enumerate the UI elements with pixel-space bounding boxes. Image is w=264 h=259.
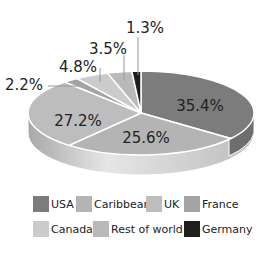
legend-item-caribbean: Caribbean — [76, 196, 150, 212]
label-rest: 3.5% — [89, 40, 127, 58]
label-germany: 1.3% — [126, 19, 164, 37]
legend-item-canada: Canada — [33, 221, 93, 237]
legend-swatch-uk — [146, 196, 162, 212]
label-france: 2.2% — [5, 76, 43, 94]
legend-swatch-germany — [184, 221, 200, 237]
legend-item-uk: UK — [146, 196, 179, 212]
legend-swatch-france — [184, 196, 200, 212]
legend-item-rest-of-world: Rest of world — [93, 221, 183, 237]
legend-item-germany: Germany — [184, 221, 253, 237]
label-usa: 35.4% — [176, 97, 224, 115]
legend-swatch-canada — [33, 221, 49, 237]
legend-item-france: France — [184, 196, 239, 212]
label-uk: 27.2% — [54, 112, 102, 130]
legend-swatch-usa — [33, 196, 49, 212]
pie-chart: 35.4% 25.6% 27.2% 2.2% 4.8% 3.5% 1.3% — [0, 0, 264, 190]
legend-item-usa: USA — [33, 196, 74, 212]
label-caribbean: 25.6% — [122, 129, 170, 147]
label-canada: 4.8% — [59, 58, 97, 76]
legend-swatch-caribbean — [76, 196, 92, 212]
legend-swatch-rest-of-world — [93, 221, 109, 237]
